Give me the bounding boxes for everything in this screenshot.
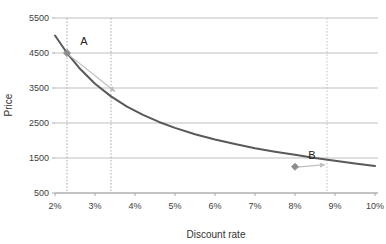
x-tick-label-9: 9% <box>328 201 341 211</box>
y-tick-label-3500: 3500 <box>29 83 49 93</box>
y-tick-label-5500: 5500 <box>29 13 49 23</box>
y-axis-title: Price <box>3 93 14 116</box>
x-axis-title: Discount rate <box>187 229 246 240</box>
y-tick-label-4500: 4500 <box>29 48 49 58</box>
x-tick-label-2: 2% <box>48 201 61 211</box>
x-tick-label-3: 3% <box>88 201 101 211</box>
point-label-b: B <box>308 149 315 161</box>
x-tick-label-6: 6% <box>208 201 221 211</box>
y-tick-label-500: 500 <box>34 188 49 198</box>
y-tick-label-2500: 2500 <box>29 118 49 128</box>
chart-svg: 55004500350025001500500 2%3%4%5%6%7%8%9%… <box>0 0 386 244</box>
x-tick-label-4: 4% <box>128 201 141 211</box>
x-tick-label-5: 5% <box>168 201 181 211</box>
point-label-a: A <box>80 35 88 47</box>
x-tick-label-7: 7% <box>248 201 261 211</box>
price-vs-discount-rate-chart: 55004500350025001500500 2%3%4%5%6%7%8%9%… <box>0 0 386 244</box>
x-tick-label-8: 8% <box>288 201 301 211</box>
x-tick-label-10: 10% <box>366 201 384 211</box>
y-tick-label-1500: 1500 <box>29 153 49 163</box>
x-tick-labels-group: 2%3%4%5%6%7%8%9%10% <box>48 201 384 211</box>
